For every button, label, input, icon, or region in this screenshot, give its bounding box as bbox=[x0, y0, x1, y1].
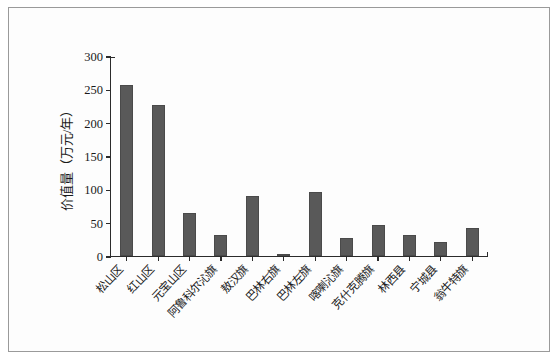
bar bbox=[152, 105, 165, 256]
y-tick-mark bbox=[106, 56, 111, 57]
bar bbox=[466, 228, 479, 256]
y-tick-mark bbox=[106, 90, 111, 91]
plot-area: 050100150200250300 bbox=[110, 57, 488, 257]
y-tick-label: 250 bbox=[84, 84, 103, 97]
x-tick-mark bbox=[440, 256, 441, 261]
figure-frame: 价值量（万元/年） 050100150200250300 松山区红山区元宝山区阿… bbox=[8, 7, 550, 352]
chart-page: 价值量（万元/年） 050100150200250300 松山区红山区元宝山区阿… bbox=[0, 0, 559, 361]
bar bbox=[309, 192, 322, 256]
bar bbox=[277, 254, 290, 256]
bar bbox=[214, 235, 227, 256]
axis-right-cap bbox=[487, 252, 488, 257]
bar bbox=[183, 213, 196, 256]
y-tick-label: 0 bbox=[97, 251, 103, 264]
x-tick-mark bbox=[346, 256, 347, 261]
y-tick-mark bbox=[106, 256, 111, 257]
y-tick-label: 100 bbox=[84, 184, 103, 197]
bar bbox=[372, 225, 385, 256]
y-tick-mark bbox=[106, 156, 111, 157]
y-tick-label: 150 bbox=[84, 151, 103, 164]
y-tick-mark bbox=[106, 223, 111, 224]
y-axis-label: 价值量（万元/年） bbox=[56, 57, 76, 257]
x-tick-mark bbox=[472, 256, 473, 261]
x-tick-mark bbox=[283, 256, 284, 261]
x-tick-mark bbox=[252, 256, 253, 261]
bar bbox=[403, 235, 416, 256]
y-tick-mark bbox=[106, 123, 111, 124]
bar bbox=[434, 242, 447, 256]
bar bbox=[340, 238, 353, 256]
x-tick-label: 林西县 bbox=[376, 263, 408, 296]
x-tick-mark bbox=[158, 256, 159, 261]
x-tick-label: 松山区 bbox=[94, 263, 126, 296]
y-axis-label-text: 价值量（万元/年） bbox=[57, 103, 76, 211]
x-tick-mark bbox=[126, 256, 127, 261]
x-tick-mark bbox=[377, 256, 378, 261]
x-tick-mark bbox=[220, 256, 221, 261]
y-tick-label: 200 bbox=[84, 117, 103, 130]
bar bbox=[120, 85, 133, 256]
bar bbox=[246, 196, 259, 256]
y-tick-label: 300 bbox=[84, 51, 103, 64]
y-tick-label: 50 bbox=[91, 217, 104, 230]
x-tick-mark bbox=[315, 256, 316, 261]
x-tick-mark bbox=[409, 256, 410, 261]
y-tick-mark bbox=[106, 190, 111, 191]
x-tick-mark bbox=[189, 256, 190, 261]
